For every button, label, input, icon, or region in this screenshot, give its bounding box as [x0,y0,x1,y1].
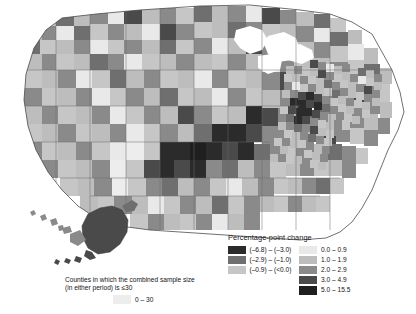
note-swatch-label: 0 – 30 [135,296,153,303]
legend-label: 5.0 – 15.5 [321,286,350,294]
legend-item: (–0.9) – (<0.0) [228,266,291,275]
note-line-2: (in either period) is ≤30 [65,284,215,292]
legend-swatch [299,246,317,254]
note-swatch [113,295,131,303]
legend-label: (–0.9) – (<0.0) [250,266,292,274]
legend-label: (–2.9) – (–1.0) [250,256,292,264]
legend-item: (–6.8) – (–3.0) [228,246,291,255]
legend-swatch [299,286,317,294]
sample-size-note: Counties in which the combined sample si… [65,276,215,304]
hawaii-inset [30,210,86,246]
legend-item: 3.0 – 4.9 [299,276,350,285]
map-legend: Percentage-point change (–6.8) – (–3.0) … [228,233,378,295]
lower48-counties [20,0,410,245]
note-line-1: Counties in which the combined sample si… [65,276,215,284]
legend-item: 2.0 – 2.9 [299,266,350,275]
legend-column-positive: 0.0 – 0.9 1.0 – 1.9 2.0 – 2.9 3.0 – 4.9 … [299,246,350,295]
legend-label: 2.0 – 2.9 [321,266,347,274]
legend-item: (–2.9) – (–1.0) [228,256,291,265]
legend-swatch [228,246,246,254]
legend-title: Percentage-point change [228,233,378,242]
legend-swatch [299,276,317,284]
legend-label: 1.0 – 1.9 [321,256,347,264]
legend-swatch [228,256,246,264]
note-legend-item: 0 – 30 [113,295,215,303]
legend-label: 0.0 – 0.9 [321,246,347,254]
legend-label: (–6.8) – (–3.0) [250,246,292,254]
legend-column-negative: (–6.8) – (–3.0) (–2.9) – (–1.0) (–0.9) –… [228,246,291,295]
legend-swatch [299,266,317,274]
legend-item: 0.0 – 0.9 [299,246,350,255]
legend-item: 1.0 – 1.9 [299,256,350,265]
legend-item: 5.0 – 15.5 [299,286,350,295]
map-figure: Percentage-point change (–6.8) – (–3.0) … [0,0,416,314]
legend-swatch [299,256,317,264]
legend-label: 3.0 – 4.9 [321,276,347,284]
legend-swatch [228,266,246,274]
